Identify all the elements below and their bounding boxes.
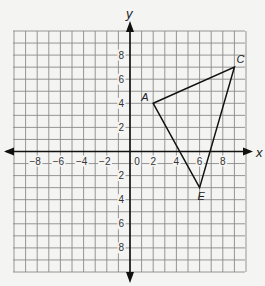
y-tick-label: 6 xyxy=(118,74,124,85)
x-tick-label: 6 xyxy=(197,156,203,167)
y-tick-label: 2 xyxy=(118,170,124,181)
y-tick-label: 8 xyxy=(118,242,124,253)
x-tick-label: −2 xyxy=(99,156,111,167)
y-tick-label: 8 xyxy=(118,50,124,61)
y-tick-label: 6 xyxy=(118,218,124,229)
y-axis-label: y xyxy=(125,6,134,21)
y-tick-label: 2 xyxy=(118,122,124,133)
x-axis-label: x xyxy=(255,145,263,160)
axes: xy xyxy=(4,6,263,283)
x-axis-arrow-right-icon xyxy=(243,148,253,156)
point-label-e: E xyxy=(198,190,206,202)
point-label-a: A xyxy=(140,91,148,103)
point-label-c: C xyxy=(236,53,244,65)
x-tick-label: 0 xyxy=(134,156,140,167)
x-tick-label: 2 xyxy=(150,156,156,167)
x-tick-label: −4 xyxy=(76,156,88,167)
x-tick-label: −6 xyxy=(53,156,65,167)
y-tick-label: 4 xyxy=(118,98,124,109)
x-axis-arrow-left-icon xyxy=(4,148,14,156)
coordinate-plane: xy −8−6−4−20246886422468 ACE xyxy=(0,0,265,286)
x-tick-label: −8 xyxy=(29,156,41,167)
y-axis-arrow-down-icon xyxy=(126,272,134,283)
x-tick-label: 4 xyxy=(174,156,180,167)
y-axis-arrow-up-icon xyxy=(126,21,134,32)
y-tick-label: 4 xyxy=(118,194,124,205)
x-tick-label: 8 xyxy=(220,156,226,167)
